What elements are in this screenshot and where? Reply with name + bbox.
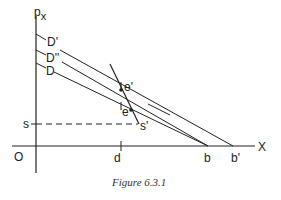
label-x-tick-b-prime: b' bbox=[231, 151, 240, 165]
demand-curve-d-double-prime-ext bbox=[62, 62, 208, 146]
label-d: D bbox=[46, 64, 55, 78]
label-s: s bbox=[23, 117, 29, 131]
point-e bbox=[129, 108, 133, 112]
demand-curve-d-double-prime bbox=[36, 50, 46, 55]
label-x-tick-d: d bbox=[114, 151, 121, 165]
demand-curve-d-prime bbox=[36, 34, 46, 40]
demand-curve-d bbox=[36, 63, 46, 68]
label-d-prime: D' bbox=[47, 35, 58, 49]
x-axis-label: X bbox=[258, 140, 266, 154]
label-e-prime: e' bbox=[124, 80, 133, 94]
figure-caption: Figure 6.3.1 bbox=[111, 176, 166, 188]
label-d-double-prime: D'' bbox=[46, 51, 59, 65]
label-s-prime: s' bbox=[140, 119, 148, 133]
label-x-tick-b: b bbox=[204, 151, 211, 165]
diagram-canvas: px D' D'' D e' e s' s O d b b' X Figure … bbox=[0, 0, 281, 200]
label-e: e bbox=[122, 105, 129, 119]
label-origin: O bbox=[14, 150, 23, 164]
